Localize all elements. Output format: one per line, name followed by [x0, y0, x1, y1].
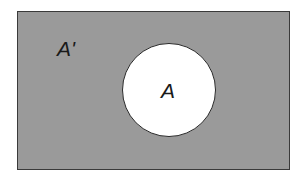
complement-label: A'	[57, 38, 75, 59]
set-a-label: A	[161, 80, 175, 101]
